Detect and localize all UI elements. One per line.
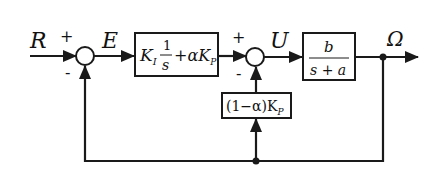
summing-junction-2 [246, 48, 264, 66]
kp-subscript: P [209, 57, 217, 67]
plant-denominator: s + a [310, 62, 346, 78]
sum1-plus-sign: + [60, 27, 73, 46]
summing-junction-1 [76, 47, 94, 65]
reference-label: R [29, 28, 47, 53]
pi-controller-block: KI 1 s +αKP [135, 33, 218, 76]
control-label: U [270, 28, 290, 53]
plant-block: b s + a [303, 33, 355, 80]
block-diagram: R + - E KI 1 s +αKP + - U b [0, 0, 442, 179]
proportional-term: +αK [174, 46, 211, 65]
error-label: E [101, 28, 118, 53]
integrator-numerator: 1 [163, 38, 171, 53]
integrator-denominator: s [162, 57, 169, 73]
output-label: Ω [386, 27, 404, 51]
inner-feedback-block: (1−α)KP [222, 93, 291, 118]
inner-kp-subscript: P [276, 107, 284, 117]
sum1-minus-sign: - [65, 63, 70, 82]
plant-numerator: b [324, 38, 334, 56]
inner-feedback-gain: (1−α)K [226, 98, 278, 114]
sum2-minus-sign: - [236, 64, 241, 83]
sum2-plus-sign: + [232, 28, 245, 47]
